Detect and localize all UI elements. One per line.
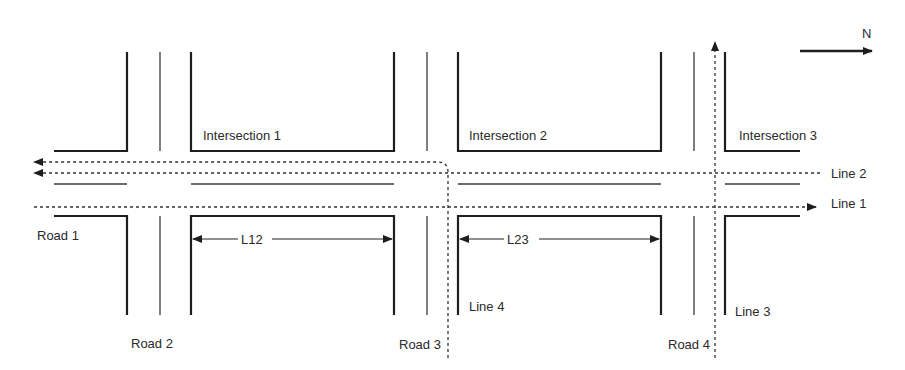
intersection-2-label: Intersection 2 [469,129,547,142]
line-4-label: Line 4 [469,300,504,313]
block-bottom-east [725,216,800,315]
intersection-3-label: Intersection 3 [739,129,817,142]
road-1-label: Road 1 [37,229,79,242]
line-2-label: Line 2 [831,167,866,180]
lane-dividers [54,52,800,315]
dimension-l23-label: L23 [507,233,529,246]
road-2-label: Road 2 [131,337,173,350]
dimension-l12-label: L12 [241,233,263,246]
route-line-4 [34,162,448,358]
compass-label: N [862,27,871,40]
block-bottom-1-2 [191,216,394,315]
line-1-label: Line 1 [831,197,866,210]
road-4-label: Road 4 [668,338,710,351]
line-3-label: Line 3 [735,305,770,318]
road-3-label: Road 3 [399,338,441,351]
block-top-west [54,52,127,151]
intersection-1-label: Intersection 1 [203,129,281,142]
